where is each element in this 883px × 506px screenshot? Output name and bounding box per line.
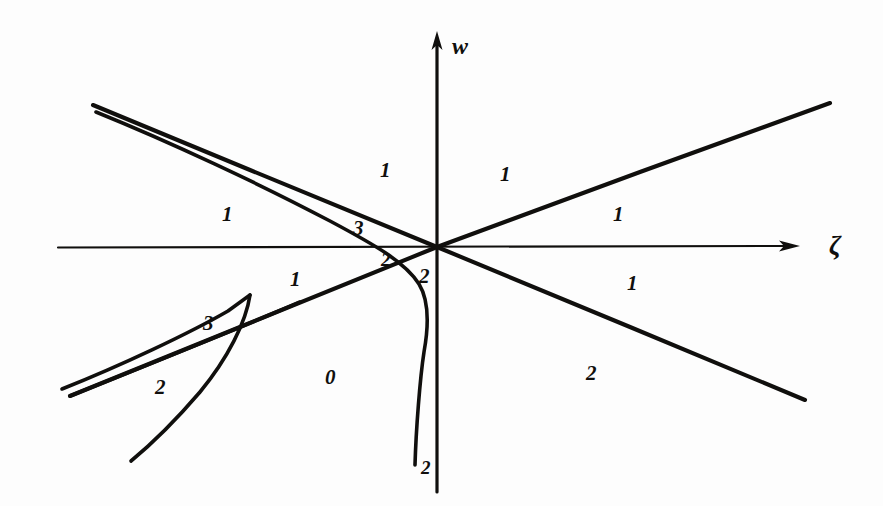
region-label-right-below-axis-1: 1 [627,273,638,294]
region-label-left-below-axis-1: 1 [290,269,301,290]
region-label-lower-right-2: 2 [586,363,597,384]
cusp-lower-branch [131,295,250,461]
region-label-upper-right-outer-1: 1 [613,204,624,225]
bifurcation-diagram: w ζ 1 1 1 1 3 2 2 1 1 3 2 0 2 2 [0,0,883,506]
zeta-axis-line [58,246,790,248]
region-label-bottom-curve-2: 2 [421,458,431,477]
upper-left-companion-curve [96,112,427,465]
region-label-lower-center-0: 0 [325,367,336,388]
region-label-center-2-upper: 2 [381,250,391,269]
cusp-chord-line [70,302,300,396]
region-label-cusp-2: 2 [155,377,166,398]
diagram-canvas [0,0,883,506]
region-label-upper-left-1: 1 [222,204,233,225]
zeta-axis-label: ζ [829,232,841,259]
w-axis-label: w [452,34,468,58]
region-label-cusp-3: 3 [203,313,214,334]
rising-separatrix [70,103,830,396]
region-label-center-2-lower: 2 [419,266,430,287]
region-label-center-3: 3 [353,218,364,239]
region-label-upper-center-1: 1 [380,160,391,181]
region-label-upper-right-inner-1: 1 [500,164,511,185]
